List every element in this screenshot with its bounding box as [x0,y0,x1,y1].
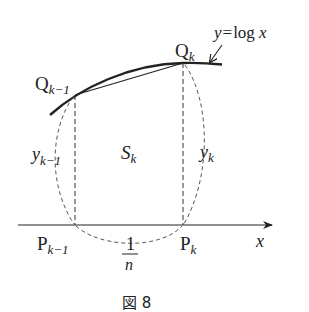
log-area-diagram: y=logx Qk−1 Qk yk−1 Sk yk Pk−1 Pk 1 n x … [0,0,309,312]
area-label-s-k: Sk [121,142,137,166]
curve-equation: y=logx [212,23,267,42]
point-label-p-k: Pk [180,233,197,257]
point-label-q-prev: Qk−1 [35,73,70,97]
figure-caption: 図 8 [122,294,151,312]
axis-label-x: x [255,231,264,251]
width-numerator: 1 [126,234,135,254]
point-label-q-k: Qk [175,40,195,64]
chord-line [75,63,183,95]
log-curve [50,63,222,115]
curve-label-pointer [210,45,222,62]
point-label-p-prev: Pk−1 [37,233,69,257]
width-denominator: n [125,256,133,273]
length-label-y-prev: yk−1 [30,144,61,168]
length-label-y-k: yk [198,142,214,165]
